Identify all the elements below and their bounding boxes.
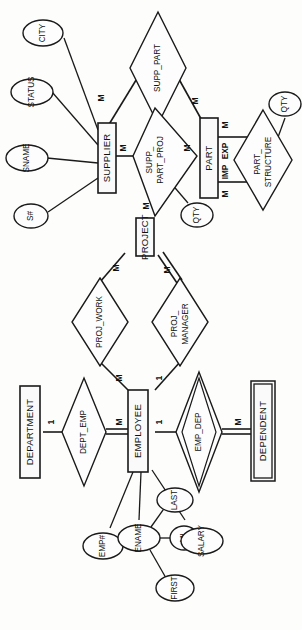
- card-dependent-emp-dep: M: [233, 418, 243, 425]
- card-project-proj-work: M: [111, 264, 121, 271]
- card-employee-emp-dep: 1: [154, 419, 164, 424]
- er-diagram-canvas: SUPPLIER PART PROJECT EMPLOYEE DEPARTMEN…: [0, 0, 302, 630]
- card-project-spp: M: [141, 202, 151, 209]
- entity-dependent-label: DEPENDENT: [257, 401, 268, 461]
- role-exp-label: EXP: [221, 142, 230, 159]
- relationship-part-structure[interactable]: PART_ STRUCTURE: [234, 110, 292, 210]
- attribute-first-label: FIRST: [170, 576, 179, 600]
- entity-part-label: PART: [203, 145, 214, 170]
- link-employee-ename: [139, 472, 141, 520]
- entity-employee[interactable]: EMPLOYEE: [128, 390, 148, 472]
- relationship-supp-part-proj[interactable]: SUPP_ PART_PROJ: [133, 108, 197, 216]
- relationship-supp-part-proj-line2: PART_PROJ: [156, 136, 165, 183]
- relationship-dept-emp-label: DEPT_EMP: [79, 409, 88, 454]
- relationship-part-structure-line1: PART_: [253, 149, 262, 175]
- card-part-spp: M: [182, 144, 192, 151]
- entity-dependent[interactable]: DEPENDENT: [251, 381, 275, 481]
- attribute-city-label: CITY: [38, 23, 47, 42]
- attribute-qty-partstruct-label: QTY: [280, 95, 289, 112]
- card-part-struct-exp: M: [220, 121, 230, 128]
- entity-supplier-label: SUPPLIER: [101, 134, 112, 183]
- attribute-empnum-label: EMP#: [98, 534, 107, 557]
- attribute-snum-label: S#: [26, 211, 35, 221]
- entity-project[interactable]: PROJECT: [136, 214, 154, 260]
- relationship-proj-work[interactable]: PROJ_WORK: [72, 278, 128, 366]
- card-department-dept-emp: 1: [46, 419, 56, 424]
- attribute-qty-supp-part-proj[interactable]: QTY: [181, 203, 213, 227]
- attribute-empnum[interactable]: EMP#: [83, 533, 123, 559]
- card-employee-proj-manager: 1: [154, 375, 164, 380]
- card-supplier-spp: M: [118, 144, 128, 151]
- attribute-status[interactable]: STATUS: [11, 76, 53, 108]
- relationship-dept-emp[interactable]: DEPT_EMP: [62, 378, 106, 486]
- attribute-last[interactable]: LAST: [157, 488, 193, 512]
- link-supplier-sname: [47, 158, 98, 163]
- card-supplier-supp-part: M: [96, 94, 106, 101]
- entity-employee-label: EMPLOYEE: [132, 404, 143, 458]
- entity-part[interactable]: PART: [200, 118, 218, 198]
- entity-supplier[interactable]: SUPPLIER: [98, 123, 116, 193]
- link-supplier-status: [52, 92, 98, 145]
- link-ename-first: [150, 550, 166, 578]
- attribute-qty-part-structure[interactable]: QTY: [269, 92, 301, 116]
- card-part-supp-part: M: [190, 97, 200, 104]
- entity-department[interactable]: DEPARTMENT: [20, 386, 40, 478]
- attribute-sname[interactable]: SNAME: [6, 143, 48, 173]
- relationship-proj-manager-line1: PROJ_: [170, 310, 179, 337]
- attribute-qty-spp-label: QTY: [192, 206, 201, 223]
- entity-project-label: PROJECT: [139, 214, 150, 260]
- card-part-struct-imp: M: [220, 190, 230, 197]
- relationship-proj-work-label: PROJ_WORK: [95, 296, 104, 348]
- entity-department-label: DEPARTMENT: [24, 399, 35, 466]
- link-supplier-snum: [48, 178, 98, 212]
- attribute-last-label: LAST: [170, 490, 179, 510]
- attribute-ename-label: ENAME: [134, 523, 143, 553]
- relationship-emp-dep-label: EMP_DEP: [194, 412, 203, 452]
- attribute-salary-label: SALARY: [197, 524, 206, 557]
- link-employee-empnum: [110, 472, 133, 528]
- relationship-supp-part-label: SUPP_PART: [153, 44, 162, 92]
- card-project-proj-manager: M: [162, 266, 172, 273]
- role-labels: EXP IMP: [221, 142, 230, 179]
- card-employee-proj-work: M: [114, 374, 124, 381]
- attribute-status-label: STATUS: [27, 76, 36, 108]
- relationship-emp-dep[interactable]: EMP_DEP: [176, 372, 222, 492]
- attribute-ename[interactable]: ENAME: [118, 523, 160, 553]
- attribute-city[interactable]: CITY: [23, 20, 63, 46]
- role-imp-label: IMP: [221, 164, 230, 179]
- relationship-part-structure-line2: STRUCTURE: [264, 136, 273, 187]
- card-employee-dept-emp: M: [114, 418, 124, 425]
- relationship-proj-manager-line2: MANAGER: [181, 303, 190, 344]
- attribute-sname-label: SNAME: [22, 143, 31, 173]
- link-supplier-city: [64, 38, 98, 130]
- relationship-supp-part-proj-line1: SUPP_: [145, 146, 154, 173]
- relationship-supp-part[interactable]: SUPP_PART: [130, 12, 186, 124]
- attribute-first[interactable]: FIRST: [156, 575, 194, 601]
- relationship-proj-manager[interactable]: PROJ_ MANAGER: [152, 278, 208, 366]
- attribute-snum[interactable]: S#: [14, 204, 48, 228]
